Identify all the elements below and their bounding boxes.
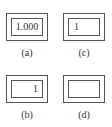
box-value: 1 [74, 21, 79, 32]
inner-box: 1 [11, 80, 43, 98]
outer-box: 1.000 [6, 13, 48, 41]
inner-box: 1 [68, 18, 100, 36]
outer-box [63, 75, 105, 103]
panel-caption: (a) [6, 47, 48, 58]
panel-caption: (c) [63, 47, 105, 58]
box-value: 1.000 [16, 21, 39, 32]
panel-caption: (d) [63, 109, 105, 120]
inner-box: 1.000 [11, 18, 43, 36]
outer-box: 1 [63, 13, 105, 41]
panel-caption: (b) [6, 109, 48, 120]
inner-box [68, 80, 100, 98]
box-value: 1 [33, 83, 38, 94]
outer-box: 1 [6, 75, 48, 103]
